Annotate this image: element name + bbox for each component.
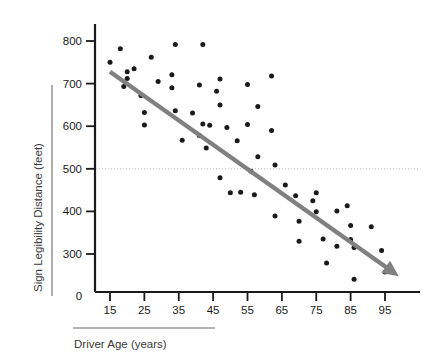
y-axis-ticks: [86, 41, 95, 254]
data-point: [228, 190, 233, 195]
data-point: [273, 162, 278, 167]
y-axis-tick-label: 300: [63, 248, 82, 260]
scatter-plot-figure: 300400500600700800 152535455565758595 0 …: [0, 0, 437, 364]
y-axis-zero-label: 0: [76, 290, 82, 302]
data-point: [345, 203, 350, 208]
data-point: [269, 73, 274, 78]
data-point: [132, 66, 137, 71]
x-axis-ticks: [110, 292, 385, 301]
data-points: [108, 42, 388, 282]
data-point: [352, 277, 357, 282]
data-point: [334, 208, 339, 213]
data-point: [297, 219, 302, 224]
data-point: [180, 138, 185, 143]
data-point: [283, 182, 288, 187]
y-axis-tick-label: 500: [63, 163, 82, 175]
data-point: [142, 110, 147, 115]
y-axis-tick-labels: 300400500600700800: [63, 35, 82, 260]
data-point: [108, 60, 113, 65]
data-point: [273, 214, 278, 219]
y-axis-tick-label: 800: [63, 35, 82, 47]
x-axis-tick-label: 95: [379, 304, 392, 316]
data-point: [142, 122, 147, 127]
y-axis-tick-label: 400: [63, 205, 82, 217]
data-point: [245, 82, 250, 87]
x-axis-tick-label: 25: [138, 304, 151, 316]
data-point: [314, 190, 319, 195]
data-point: [200, 42, 205, 47]
trend-line-shaft: [110, 72, 390, 270]
data-point: [297, 239, 302, 244]
x-axis-tick-label: 65: [275, 304, 288, 316]
x-axis-tick-labels: 152535455565758595: [104, 304, 392, 316]
data-point: [173, 42, 178, 47]
data-point: [197, 82, 202, 87]
y-axis-title: Sign Legibility Distance (feet): [32, 143, 44, 292]
data-point: [348, 223, 353, 228]
x-axis-tick-label: 45: [207, 304, 220, 316]
y-axis-tick-label: 600: [63, 120, 82, 132]
x-axis-tick-label: 35: [172, 304, 185, 316]
data-point: [379, 248, 384, 253]
y-axis-tick-label: 700: [63, 78, 82, 90]
data-point: [324, 260, 329, 265]
data-point: [125, 69, 130, 74]
data-point: [218, 175, 223, 180]
data-point: [169, 85, 174, 90]
data-point: [310, 198, 315, 203]
data-point: [218, 102, 223, 107]
data-point: [238, 190, 243, 195]
x-axis-tick-label: 15: [104, 304, 117, 316]
x-axis-title: Driver Age (years): [74, 338, 167, 350]
data-point: [255, 154, 260, 159]
data-point: [314, 209, 319, 214]
data-point: [173, 108, 178, 113]
data-point: [321, 237, 326, 242]
data-point: [156, 79, 161, 84]
data-point: [269, 128, 274, 133]
data-point: [293, 193, 298, 198]
x-axis-tick-label: 75: [310, 304, 323, 316]
data-point: [255, 104, 260, 109]
data-point: [218, 76, 223, 81]
data-point: [214, 89, 219, 94]
x-axis-tick-label: 85: [344, 304, 357, 316]
data-point: [149, 55, 154, 60]
data-point: [334, 244, 339, 249]
data-point: [369, 224, 374, 229]
data-point: [169, 72, 174, 77]
data-point: [204, 145, 209, 150]
data-point: [245, 122, 250, 127]
trend-line: [110, 72, 399, 276]
data-point: [235, 138, 240, 143]
data-point: [207, 123, 212, 128]
data-point: [118, 46, 123, 51]
data-point: [190, 110, 195, 115]
x-axis-tick-label: 55: [241, 304, 254, 316]
plot-canvas: 300400500600700800 152535455565758595 0 …: [0, 0, 437, 364]
data-point: [224, 125, 229, 130]
data-point: [200, 122, 205, 127]
data-point: [252, 192, 257, 197]
